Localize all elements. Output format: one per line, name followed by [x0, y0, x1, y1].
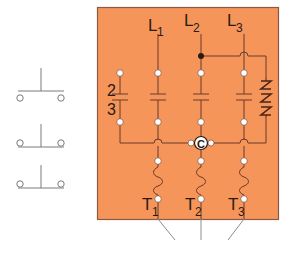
terminal-c-right: [208, 140, 214, 146]
terminal-t2: [198, 196, 205, 203]
svg-text:1: 1: [157, 25, 164, 39]
svg-text:T: T: [228, 195, 238, 214]
aux-label-bottom: 3: [107, 101, 116, 118]
pushbutton-switch-top: [17, 68, 64, 101]
svg-text:2: 2: [193, 21, 200, 35]
common-node: C: [195, 137, 208, 150]
terminal-l3-top: [241, 70, 248, 77]
svg-text:3: 3: [238, 205, 245, 219]
terminal-t3: [241, 196, 248, 203]
terminal-ol3-top: [241, 158, 248, 165]
junction-dot: [198, 53, 204, 59]
svg-text:3: 3: [236, 21, 243, 35]
terminal-l1-top: [155, 70, 162, 77]
contactor-wiring-diagram: C L 1 L 2 L 3 2 3 T 1 T 2 T 3: [0, 0, 294, 255]
pushbutton-switch-middle: [17, 124, 64, 147]
svg-text:2: 2: [195, 205, 202, 219]
aux-label-top: 2: [107, 82, 116, 99]
terminal-l2-bottom: [198, 119, 205, 126]
contactor-panel: [98, 8, 279, 220]
terminal-l3-bottom: [241, 119, 248, 126]
svg-text:1: 1: [152, 205, 159, 219]
load-leads: [158, 219, 244, 240]
pushbutton-switch-bottom: [17, 165, 64, 188]
terminal-ol2-top: [198, 158, 205, 165]
svg-text:T: T: [142, 195, 152, 214]
common-node-label: C: [197, 138, 205, 150]
terminal-l2-top: [198, 70, 205, 77]
terminal-aux-top: [117, 70, 124, 77]
terminal-l1-bottom: [155, 119, 162, 126]
terminal-c-left: [188, 140, 194, 146]
svg-text:T: T: [185, 195, 195, 214]
terminal-aux-bottom: [117, 119, 124, 126]
terminal-ol1-top: [155, 158, 162, 165]
terminal-t1: [155, 196, 162, 203]
